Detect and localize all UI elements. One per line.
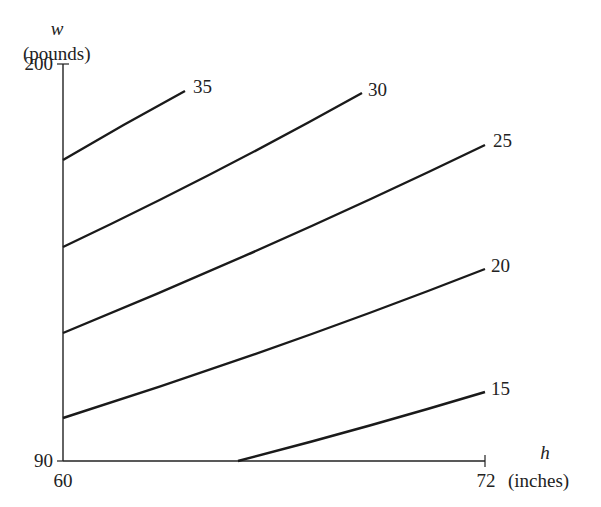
x-tick-label-72: 72 [477,470,496,491]
curve-label-25: 25 [493,130,512,151]
x-axis-variable: h [540,442,550,463]
curve-label-20: 20 [491,255,510,276]
curve-35 [63,91,185,160]
bmi-contour-chart: 35 30 25 20 15 w (pounds) (pounds) 200 9… [0,0,601,507]
curve-15 [238,392,485,461]
x-axis-unit: (inches) [508,470,569,492]
curve-label-35: 35 [193,76,212,97]
curve-20 [63,269,485,418]
y-tick-label-200: 200 [25,53,54,74]
y-tick-label-90: 90 [34,450,53,471]
y-axis-variable: w [51,18,64,39]
curve-label-15: 15 [491,378,510,399]
curve-label-30: 30 [368,79,387,100]
curve-25 [63,145,485,333]
x-tick-label-60: 60 [54,470,73,491]
